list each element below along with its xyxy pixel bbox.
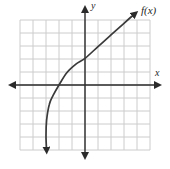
y-axis-label: y bbox=[91, 1, 95, 11]
function-label: f(x) bbox=[141, 5, 156, 16]
function-graph-figure: y x f(x) bbox=[0, 0, 170, 169]
graph-canvas bbox=[0, 0, 170, 169]
x-axis-label: x bbox=[155, 68, 159, 78]
